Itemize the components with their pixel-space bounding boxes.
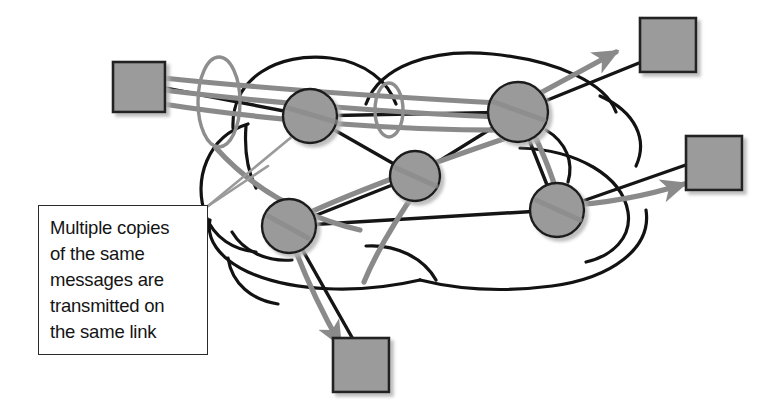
flow-center-down (364, 188, 418, 282)
callout-text: Multiple copies of the same messages are… (50, 215, 207, 345)
cloud-arc-right-shoulder (600, 96, 641, 166)
diagram-canvas: Multiple copies of the same messages are… (0, 0, 776, 415)
callout-box: Multiple copies of the same messages are… (38, 205, 208, 355)
callout-leader-lines (208, 130, 300, 206)
router-nodes (262, 82, 584, 253)
leader-line-upper (208, 130, 300, 206)
flow-copy-a (163, 78, 520, 104)
host-dest-top[interactable] (640, 18, 696, 72)
host-source-left[interactable] (113, 62, 165, 112)
host-dest-right[interactable] (686, 136, 742, 190)
host-dest-bottom[interactable] (333, 338, 389, 392)
